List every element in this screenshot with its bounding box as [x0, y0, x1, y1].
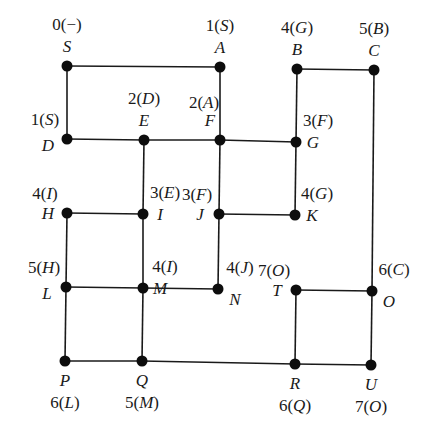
edge-q-r	[142, 361, 295, 364]
node-name-r: R	[289, 374, 301, 393]
bfs-label-f: 2(A)	[189, 93, 219, 112]
bfs-label-r: 6(Q)	[279, 396, 311, 415]
edge-l-p	[65, 287, 66, 361]
node-name-o: O	[383, 292, 395, 311]
node-i	[138, 209, 149, 220]
node-name-g: G	[307, 133, 319, 152]
edge-g-k	[295, 142, 296, 215]
bfs-label-c: 5(B)	[359, 19, 389, 38]
bfs-label-m: 4(I)	[152, 257, 178, 276]
node-a	[215, 62, 226, 73]
edge-f-g	[220, 140, 296, 142]
node-j	[214, 209, 225, 220]
node-q	[137, 356, 148, 367]
node-n	[213, 284, 224, 295]
node-f	[215, 135, 226, 146]
node-k	[290, 210, 301, 221]
bfs-label-j: 3(F)	[182, 185, 212, 204]
node-name-j: J	[196, 205, 205, 224]
edge-j-k	[219, 214, 295, 215]
edge-b-g	[296, 69, 297, 142]
node-e	[139, 135, 150, 146]
edge-c-o	[372, 70, 374, 291]
node-name-n: N	[228, 290, 242, 309]
node-b	[292, 64, 303, 75]
node-l	[61, 282, 72, 293]
bfs-label-s: 0(−)	[52, 15, 81, 34]
edge-d-e	[67, 139, 144, 140]
node-h	[62, 208, 73, 219]
node-name-c: C	[368, 41, 380, 60]
bfs-label-q: 5(M)	[125, 393, 159, 412]
node-name-e: E	[138, 111, 150, 130]
bfs-label-a: 1(S)	[206, 16, 234, 35]
edge-e-i	[143, 140, 144, 214]
node-name-b: B	[292, 40, 303, 59]
bfs-label-l: 5(H)	[28, 258, 60, 277]
node-name-f: F	[204, 111, 216, 130]
node-name-p: P	[59, 371, 70, 390]
edge-h-l	[66, 213, 67, 287]
bfs-label-h: 4(I)	[32, 184, 58, 203]
node-u	[366, 360, 377, 371]
edge-h-i	[67, 213, 143, 214]
bfs-label-n: 4(J)	[226, 258, 253, 277]
node-r	[290, 359, 301, 370]
bfs-label-u: 7(O)	[355, 397, 387, 416]
node-s	[62, 61, 73, 72]
node-name-t: T	[272, 281, 283, 300]
edge-m-q	[142, 288, 143, 361]
node-name-a: A	[214, 38, 226, 57]
node-name-l: L	[41, 284, 51, 303]
edge-j-n	[218, 214, 219, 289]
bfs-label-b: 4(G)	[281, 18, 313, 37]
node-t	[291, 285, 302, 296]
edge-t-r	[295, 290, 296, 364]
bfs-label-g: 3(F)	[303, 111, 333, 130]
edge-o-u	[371, 291, 372, 365]
edge-r-u	[295, 364, 371, 365]
bfs-label-p: 6(L)	[50, 393, 79, 412]
node-o	[367, 286, 378, 297]
bfs-graph-diagram: S0(−)A1(S)B4(G)C5(B)D1(S)E2(D)F2(A)G3(F)…	[0, 0, 421, 426]
bfs-label-k: 4(G)	[301, 184, 333, 203]
node-g	[291, 137, 302, 148]
node-m	[138, 283, 149, 294]
edge-s-a	[67, 66, 220, 67]
node-name-q: Q	[136, 371, 148, 390]
node-name-m: M	[152, 279, 168, 298]
bfs-label-i: 3(E)	[150, 183, 180, 202]
node-name-k: K	[305, 206, 319, 225]
bfs-label-e: 2(D)	[128, 89, 160, 108]
edge-l-m	[66, 287, 143, 288]
bfs-label-t: 7(O)	[258, 261, 290, 280]
node-d	[62, 134, 73, 145]
bfs-label-o: 6(C)	[378, 260, 409, 279]
node-name-i: I	[156, 205, 164, 224]
graph-canvas: S0(−)A1(S)B4(G)C5(B)D1(S)E2(D)F2(A)G3(F)…	[0, 0, 421, 426]
bfs-label-d: 1(S)	[31, 110, 59, 129]
node-p	[60, 356, 71, 367]
edge-t-o	[296, 290, 372, 291]
edge-b-c	[297, 69, 374, 70]
edge-f-j	[219, 140, 220, 214]
node-name-h: H	[41, 204, 56, 223]
node-name-d: D	[41, 136, 55, 155]
node-c	[369, 65, 380, 76]
node-name-s: S	[63, 37, 72, 56]
node-name-u: U	[365, 375, 379, 394]
